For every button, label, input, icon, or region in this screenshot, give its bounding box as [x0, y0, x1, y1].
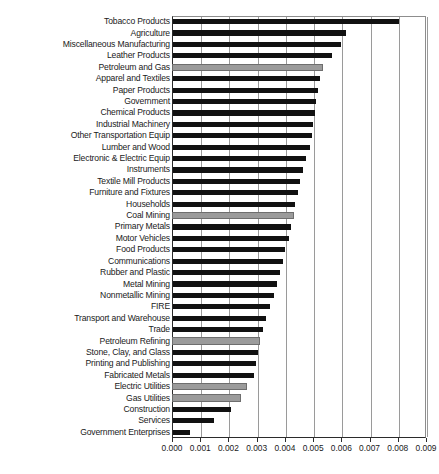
bar: [173, 236, 289, 241]
bar-track: [173, 153, 306, 164]
category-label: Electronic & Electric Equip: [0, 154, 170, 163]
bar: [173, 407, 231, 412]
bar: [173, 338, 259, 343]
category-label: Chemical Products: [0, 108, 170, 117]
bar-track: [173, 210, 293, 221]
bar-track: [173, 335, 259, 346]
bar-track: [173, 198, 295, 209]
bar: [173, 88, 318, 93]
bar: [173, 316, 266, 321]
bar-row: Gas Utilities: [0, 392, 439, 403]
bar-track: [173, 313, 266, 324]
bar-row: Rubber and Plastic: [0, 267, 439, 278]
bar-row: Chemical Products: [0, 107, 439, 118]
bar-row: Electronic & Electric Equip: [0, 153, 439, 164]
x-tick: [426, 438, 427, 442]
bar-row: FIRE: [0, 301, 439, 312]
x-tick: [398, 438, 399, 442]
category-label: Instruments: [0, 165, 170, 174]
bar-row: Textile Mill Products: [0, 176, 439, 187]
bar: [173, 179, 300, 184]
bar-row: Petroleum and Gas: [0, 62, 439, 73]
bar-track: [173, 187, 298, 198]
bar: [173, 395, 240, 400]
bar: [173, 247, 285, 252]
bar-row: Services: [0, 415, 439, 426]
bar: [173, 430, 190, 435]
bar-row: Other Transportation Equip: [0, 130, 439, 141]
category-label: Petroleum Refining: [0, 337, 170, 346]
bar-row: Electric Utilities: [0, 381, 439, 392]
bar: [173, 190, 298, 195]
bar: [173, 76, 320, 81]
category-label: Industrial Machinery: [0, 120, 170, 129]
bar-track: [173, 73, 320, 84]
bar-row: Coal Mining: [0, 210, 439, 221]
category-label: Textile Mill Products: [0, 177, 170, 186]
bar-track: [173, 381, 246, 392]
category-label: Other Transportation Equip: [0, 131, 170, 140]
bar-track: [173, 130, 312, 141]
bar-track: [173, 370, 254, 381]
bar-row: Primary Metals: [0, 221, 439, 232]
category-label: Apparel and Textiles: [0, 74, 170, 83]
bar-row: Leather Products: [0, 50, 439, 61]
category-label: Primary Metals: [0, 222, 170, 231]
bar: [173, 304, 270, 309]
category-label: Agriculture: [0, 29, 170, 38]
x-tick: [200, 438, 201, 442]
category-label: Miscellaneous Manufacturing: [0, 40, 170, 49]
bar-track: [173, 221, 291, 232]
bar: [173, 110, 315, 115]
bar: [173, 30, 346, 35]
category-label: Government Enterprises: [0, 428, 170, 437]
bar-track: [173, 96, 316, 107]
bar-track: [173, 164, 303, 175]
bar-track: [173, 62, 322, 73]
x-tick-label: 0.009: [403, 443, 439, 453]
bar-track: [173, 16, 399, 27]
category-label: Rubber and Plastic: [0, 268, 170, 277]
bar: [173, 42, 341, 47]
category-label: Coal Mining: [0, 211, 170, 220]
bar-row: Instruments: [0, 164, 439, 175]
bar: [173, 373, 254, 378]
bar: [173, 53, 332, 58]
category-label: Gas Utilities: [0, 394, 170, 403]
category-label: Nonmetallic Mining: [0, 291, 170, 300]
category-label: Stone, Clay, and Glass: [0, 348, 170, 357]
category-label: Trade: [0, 325, 170, 334]
bar-track: [173, 347, 258, 358]
x-tick: [172, 438, 173, 442]
bar-track: [173, 84, 318, 95]
bar: [173, 224, 291, 229]
bar-row: Apparel and Textiles: [0, 73, 439, 84]
bar: [173, 122, 313, 127]
bar-row: Construction: [0, 404, 439, 415]
bar-track: [173, 301, 270, 312]
category-label: Motor Vehicles: [0, 234, 170, 243]
category-label: FIRE: [0, 302, 170, 311]
bar-row: Communications: [0, 256, 439, 267]
bar-track: [173, 290, 274, 301]
bar-track: [173, 244, 285, 255]
bar-row: Agriculture: [0, 27, 439, 38]
bar-track: [173, 358, 256, 369]
category-label: Households: [0, 200, 170, 209]
bar-track: [173, 256, 283, 267]
bar-row: Tobacco Products: [0, 16, 439, 27]
bar-row: Food Products: [0, 244, 439, 255]
bar-track: [173, 141, 310, 152]
category-label: Paper Products: [0, 86, 170, 95]
bar-row: Government Enterprises: [0, 427, 439, 438]
bar: [173, 156, 306, 161]
x-tick: [285, 438, 286, 442]
bar: [173, 213, 293, 218]
category-label: Electric Utilities: [0, 382, 170, 391]
bar-track: [173, 278, 277, 289]
bar-track: [173, 119, 313, 130]
bar-row: Households: [0, 198, 439, 209]
bar: [173, 293, 274, 298]
bar-track: [173, 427, 190, 438]
bar: [173, 350, 258, 355]
